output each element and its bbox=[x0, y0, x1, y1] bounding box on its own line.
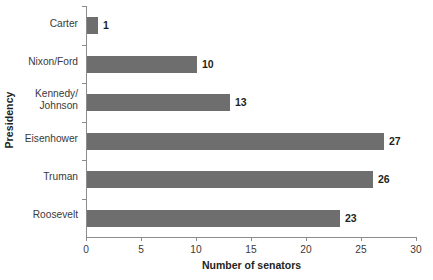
bar-value-carter: 1 bbox=[103, 19, 109, 31]
bar-value-roosevelt: 23 bbox=[345, 212, 357, 224]
bar-nixon-ford bbox=[87, 56, 197, 73]
x-axis-tick bbox=[141, 237, 142, 241]
x-axis-tick bbox=[361, 237, 362, 241]
bar-value-nixon-ford: 10 bbox=[202, 58, 214, 70]
y-axis-tick-labels: Carter Nixon/Ford Kennedy/ Johnson Eisen… bbox=[18, 6, 82, 237]
bar-eisenhower bbox=[87, 133, 384, 150]
bar-truman bbox=[87, 171, 373, 188]
x-tick-label-25: 25 bbox=[355, 244, 366, 255]
bar-carter bbox=[87, 17, 98, 34]
x-tick-label-5: 5 bbox=[138, 244, 144, 255]
y-tick-label-nixon-ford: Nixon/Ford bbox=[14, 56, 78, 68]
y-axis-tick bbox=[82, 199, 86, 200]
y-axis-tick bbox=[82, 45, 86, 46]
y-tick-label-roosevelt: Roosevelt bbox=[14, 209, 78, 221]
x-axis-tick bbox=[251, 237, 252, 241]
x-axis-tick bbox=[416, 237, 417, 241]
y-axis-line bbox=[86, 6, 87, 237]
x-tick-label-15: 15 bbox=[245, 244, 256, 255]
bar-value-kennedy-johnson: 13 bbox=[235, 96, 247, 108]
x-axis-tick bbox=[196, 237, 197, 241]
y-tick-label-carter: Carter bbox=[14, 18, 78, 30]
bar-kennedy-johnson bbox=[87, 94, 230, 111]
x-axis-tick bbox=[86, 237, 87, 241]
x-tick-label-0: 0 bbox=[83, 244, 89, 255]
x-axis-title: Number of senators bbox=[86, 259, 417, 271]
x-axis-tick bbox=[306, 237, 307, 241]
bar-chart: Presidency Carter Nixon/Ford Kennedy/ Jo… bbox=[0, 0, 433, 280]
bar-value-truman: 26 bbox=[378, 173, 390, 185]
x-tick-label-10: 10 bbox=[190, 244, 201, 255]
plot-area: 0 5 10 15 20 25 30 1 10 13 27 26 23 bbox=[86, 6, 417, 237]
x-tick-label-20: 20 bbox=[300, 244, 311, 255]
x-tick-label-30: 30 bbox=[410, 244, 421, 255]
y-tick-label-eisenhower: Eisenhower bbox=[14, 133, 78, 145]
y-axis-tick bbox=[82, 160, 86, 161]
y-axis-tick bbox=[82, 122, 86, 123]
y-axis-tick bbox=[82, 6, 86, 7]
y-axis-title: Presidency bbox=[0, 0, 18, 240]
y-axis-tick bbox=[82, 83, 86, 84]
y-tick-label-kennedy-johnson: Kennedy/ Johnson bbox=[14, 88, 78, 111]
bar-value-eisenhower: 27 bbox=[389, 135, 401, 147]
bar-roosevelt bbox=[87, 210, 340, 227]
y-tick-label-truman: Truman bbox=[14, 171, 78, 183]
